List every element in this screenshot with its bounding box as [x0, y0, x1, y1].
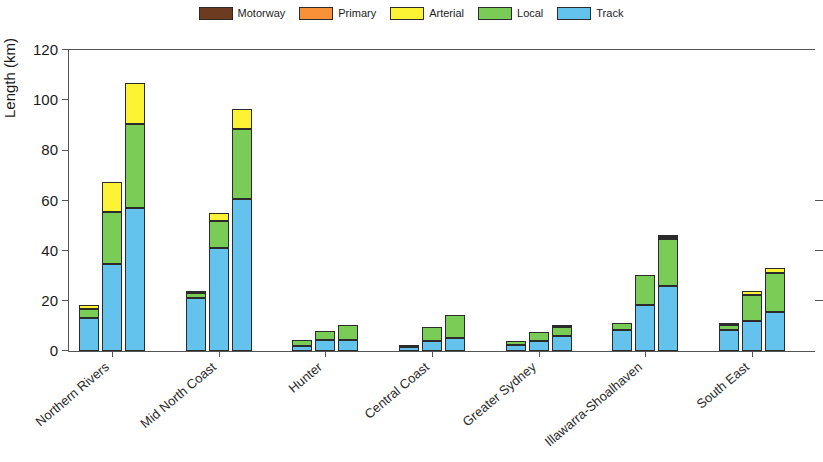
right-axis-tick: [815, 300, 823, 301]
legend-swatch-arterial: [390, 7, 424, 20]
bar-segment-track: [552, 336, 572, 351]
y-axis-tick: [62, 150, 69, 151]
right-axis-tick: [815, 250, 823, 251]
bar-segment-local: [399, 345, 419, 348]
bar-greater-sydney-1: [506, 341, 526, 351]
bar-segment-local: [529, 332, 549, 341]
y-axis-tick-label: 40: [16, 243, 58, 258]
bar-segment-local: [719, 325, 739, 330]
legend-label-track: Track: [596, 8, 623, 19]
bar-segment-local: [338, 325, 358, 340]
right-axis-tick: [815, 200, 823, 201]
bar-south-east-1: [719, 323, 739, 351]
legend-swatch-primary: [299, 7, 333, 20]
bar-segment-local: [125, 124, 145, 208]
bar-segment-motorway: [658, 235, 678, 237]
bar-segment-arterial: [765, 268, 785, 273]
bar-segment-local: [612, 323, 632, 329]
x-axis-label-hunter: Hunter: [287, 360, 326, 396]
bar-segment-local: [635, 275, 655, 305]
bar-segment-track: [209, 248, 229, 351]
bar-segment-local: [79, 309, 99, 319]
bar-segment-track: [232, 199, 252, 351]
bar-segment-track: [612, 330, 632, 351]
x-axis-label-greater-sydney: Greater Sydney: [460, 360, 539, 429]
chart-legend: MotorwayPrimaryArterialLocalTrack: [0, 2, 822, 24]
y-axis-tick: [62, 300, 69, 301]
legend-label-local: Local: [517, 8, 543, 19]
x-axis-tick: [219, 351, 220, 357]
y-axis-tick: [62, 250, 69, 251]
legend-label-primary: Primary: [338, 8, 376, 19]
x-axis-label-northern-rivers: Northern Rivers: [34, 360, 113, 429]
bar-greater-sydney-2: [529, 332, 549, 351]
bar-segment-track: [422, 341, 442, 351]
y-axis-tick-label: 20: [16, 293, 58, 308]
bar-segment-local: [232, 129, 252, 199]
bar-illawarra-shoalhaven-3: [658, 236, 678, 351]
legend-item-primary: Primary: [299, 7, 376, 20]
bar-mid-north-coast-2: [209, 213, 229, 351]
bar-segment-track: [186, 298, 206, 351]
legend-item-motorway: Motorway: [199, 7, 286, 20]
bar-segment-local: [445, 315, 465, 339]
x-axis-label-illawarra-shoalhaven: Illawarra-Shoalhaven: [543, 360, 646, 449]
y-axis-tick: [62, 350, 69, 351]
x-axis-tick: [325, 351, 326, 357]
bar-segment-arterial: [552, 325, 572, 328]
legend-swatch-local: [478, 7, 512, 20]
bar-south-east-2: [742, 291, 762, 351]
bar-segment-track: [338, 340, 358, 351]
x-axis-label-central-coast: Central Coast: [362, 360, 432, 422]
bar-segment-local: [765, 273, 785, 312]
x-axis-tick: [752, 351, 753, 357]
legend-label-arterial: Arterial: [429, 8, 464, 19]
bar-segment-arterial: [186, 291, 206, 294]
x-axis-label-mid-north-coast: Mid North Coast: [138, 360, 219, 431]
y-axis-tick-label: 80: [16, 142, 58, 157]
bar-segment-track: [635, 305, 655, 351]
bar-segment-arterial: [232, 109, 252, 129]
bar-segment-local: [552, 327, 572, 336]
bar-hunter-1: [292, 340, 312, 351]
legend-item-local: Local: [478, 7, 543, 20]
bar-segment-arterial: [125, 83, 145, 124]
bar-segment-track: [399, 347, 419, 351]
bar-central-coast-3: [445, 315, 465, 351]
y-axis-tick: [62, 49, 69, 50]
bar-segment-local: [209, 221, 229, 249]
y-axis-tick: [62, 99, 69, 100]
bar-greater-sydney-3: [552, 325, 572, 351]
bar-segment-local: [506, 341, 526, 345]
legend-item-track: Track: [557, 7, 623, 20]
bar-northern-rivers-3: [125, 83, 145, 351]
bar-central-coast-1: [399, 345, 419, 351]
bar-northern-rivers-1: [79, 305, 99, 351]
bar-south-east-3: [765, 268, 785, 351]
x-axis-label-south-east: South East: [694, 360, 752, 412]
bar-segment-track: [102, 264, 122, 351]
bar-segment-track: [445, 338, 465, 351]
bar-segment-local: [292, 340, 312, 346]
bar-hunter-2: [315, 331, 335, 351]
bar-segment-arterial: [742, 291, 762, 295]
legend-swatch-track: [557, 7, 591, 20]
legend-label-motorway: Motorway: [238, 8, 286, 19]
bar-segment-local: [422, 327, 442, 341]
y-axis-tick: [62, 200, 69, 201]
x-axis-tick: [432, 351, 433, 357]
bar-segment-track: [125, 208, 145, 351]
y-axis-tick-label: 0: [16, 343, 58, 358]
x-axis-tick: [645, 351, 646, 357]
bar-illawarra-shoalhaven-1: [612, 323, 632, 351]
bar-segment-motorway: [719, 323, 739, 325]
bar-segment-track: [315, 340, 335, 351]
bar-northern-rivers-2: [102, 182, 122, 351]
bar-segment-arterial: [658, 237, 678, 240]
bar-mid-north-coast-1: [186, 291, 206, 351]
legend-swatch-motorway: [199, 7, 233, 20]
plot-area: 020406080100120: [68, 49, 815, 352]
bar-segment-track: [506, 345, 526, 351]
y-axis-tick-label: 60: [16, 193, 58, 208]
bar-segment-local: [742, 295, 762, 321]
